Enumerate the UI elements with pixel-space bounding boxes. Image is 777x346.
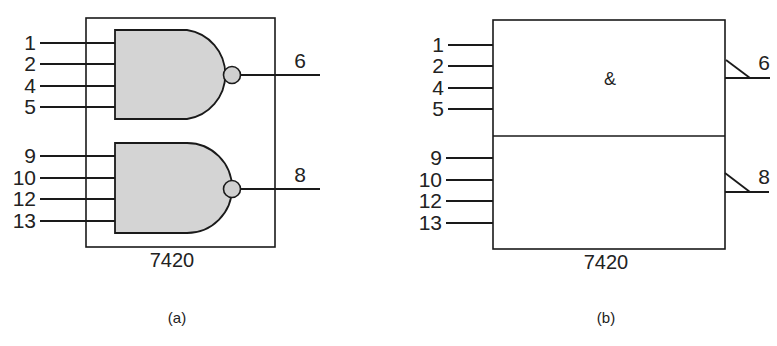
pin-label: 8 [294,163,306,186]
gate-2-inputs [40,156,115,221]
inversion-bubble-2 [224,181,241,198]
caption-b: (b) [597,309,615,326]
pin-label: 13 [13,209,36,232]
pin-label: 8 [758,165,770,188]
nand-gate-1-body [115,30,225,119]
pin-label: 10 [419,168,442,191]
panel-b: & 1 2 4 5 6 9 10 12 13 8 7420 (b) [419,20,770,326]
pin-label: 5 [24,95,36,118]
section-1-inputs [448,45,493,109]
inversion-bubble-1 [224,67,241,84]
pin-label: 4 [432,76,444,99]
pin-label: 2 [24,52,36,75]
pin-label: 1 [24,31,36,54]
diagram-canvas: 1 2 4 5 6 9 10 12 13 8 7420 (a) & [0,0,777,346]
pin-label: 12 [13,187,36,210]
pin-label: 5 [432,97,444,120]
pin-label: 10 [13,166,36,189]
pin-label: 12 [419,189,442,212]
pin-label: 9 [430,146,442,169]
chip-label-a: 7420 [150,249,195,271]
pin-label: 6 [758,51,770,74]
and-function-symbol: & [604,69,616,89]
pin-label: 13 [419,211,442,234]
section-2-inputs [446,158,493,223]
polarity-indicator-6-icon [726,60,750,78]
caption-a: (a) [168,309,186,326]
pin-label: 6 [294,49,306,72]
pin-label: 4 [24,74,36,97]
pin-label: 9 [24,144,36,167]
pin-label: 1 [432,33,444,56]
panel-a: 1 2 4 5 6 9 10 12 13 8 7420 (a) [13,18,320,326]
chip-outline-b [493,20,725,249]
polarity-indicator-8-icon [725,173,750,192]
gate-1-inputs [40,43,115,107]
chip-label-b: 7420 [584,251,629,273]
pin-label: 2 [432,54,444,77]
nand-gate-2-body [115,143,232,233]
